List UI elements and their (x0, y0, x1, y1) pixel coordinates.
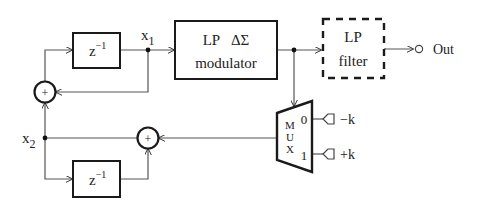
neg-k-label: −k (340, 112, 355, 127)
delay-block-bottom: z−1 (73, 161, 120, 197)
mux-port0-label: 0 (301, 112, 308, 127)
wire-filter-to-out (385, 48, 413, 49)
summer-top-left-symbol: + (42, 86, 49, 100)
output-terminal-icon (415, 45, 422, 52)
wire-sum-to-delay-top (45, 50, 72, 82)
summer-middle-symbol: + (145, 132, 152, 146)
summer-top-left: + (35, 82, 56, 103)
x2-label: x2 (22, 130, 36, 151)
delay-block-top: z−1 (73, 33, 120, 68)
mux-letter-x: X (286, 143, 294, 155)
modulator-line1: LP ΔΣ (203, 32, 250, 48)
constant-neg-k-icon (323, 114, 334, 124)
sigma-delta-block-diagram: z−1 x1 LP ΔΣ modulator LP filter Out + +… (0, 0, 478, 210)
delay-bottom-exp: −1 (96, 169, 107, 180)
x2-junction-dot (43, 136, 48, 141)
filter-line2: filter (338, 53, 367, 69)
mux-block: M U X 0 1 (277, 101, 312, 172)
mux-letter-u: U (286, 131, 294, 143)
out-label: Out (433, 42, 454, 57)
mux-port1-label: 1 (301, 148, 308, 163)
delay-top-exp: −1 (96, 40, 107, 51)
x1-junction-dot (146, 48, 151, 53)
modulator-line2: modulator (195, 55, 257, 71)
constant-pos-k-icon (323, 149, 334, 159)
filter-line1: LP (344, 29, 362, 45)
pos-k-label: +k (340, 147, 355, 162)
lp-filter-block: LP filter (323, 19, 384, 78)
wire-x2-to-delay-bottom (45, 138, 72, 179)
summer-middle: + (138, 128, 159, 149)
modulator-output-junction-dot (292, 48, 297, 53)
x1-label: x1 (141, 27, 155, 48)
wire-delay-bottom-to-sum (120, 149, 148, 179)
lp-delta-sigma-modulator-block: LP ΔΣ modulator (175, 21, 277, 79)
mux-letter-m: M (285, 119, 295, 131)
